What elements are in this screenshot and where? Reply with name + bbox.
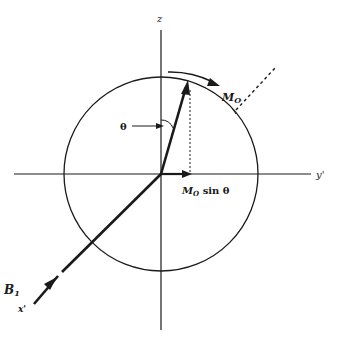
projection-arrow — [161, 170, 192, 178]
b1-label: B1 — [3, 283, 20, 298]
z-axis-label: z — [156, 13, 163, 24]
rotation-arrow — [168, 72, 220, 86]
projection-label: MO sin θ — [181, 185, 230, 198]
x-axis — [34, 174, 161, 304]
nmr-rotating-frame-diagram: z y' x' B1 — [0, 0, 337, 340]
theta-arc — [161, 120, 173, 130]
x-axis-label: x' — [17, 304, 26, 314]
y-axis-label: y' — [315, 169, 324, 180]
magnetization-vector — [161, 80, 190, 174]
theta-label: θ — [120, 121, 127, 132]
magnetization-label: MO — [221, 91, 241, 105]
theta-pointer-arrow — [132, 123, 164, 129]
b1-field-arrow — [44, 277, 57, 290]
dashed-extension-line — [232, 68, 275, 114]
